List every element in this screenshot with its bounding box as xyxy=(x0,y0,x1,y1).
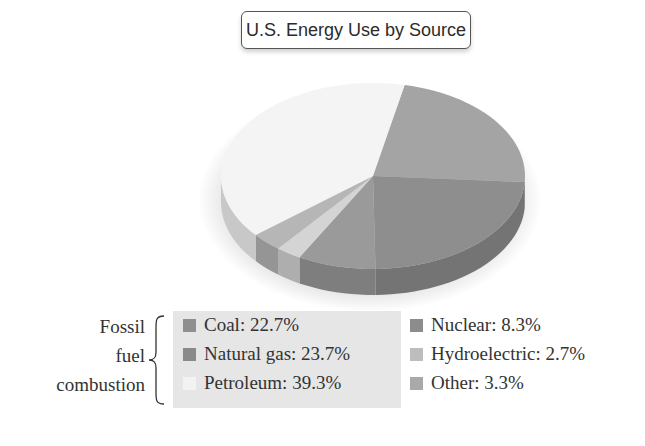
legend-item-nuclear: Nuclear: 8.3% xyxy=(410,314,541,336)
legend-label: Hydroelectric: 2.7% xyxy=(431,343,585,365)
legend-item-coal: Coal: 22.7% xyxy=(183,314,299,336)
legend-label: Natural gas: 23.7% xyxy=(204,343,350,365)
swatch-other xyxy=(410,377,423,390)
curly-brace-icon xyxy=(146,314,168,406)
fossil-fuel-group-label: Fossil fuel combustion xyxy=(40,312,145,399)
swatch-coal xyxy=(183,319,196,332)
group-label-line: fuel xyxy=(40,341,145,370)
legend-item-other: Other: 3.3% xyxy=(410,372,524,394)
legend-label: Nuclear: 8.3% xyxy=(431,314,541,336)
legend-item-petroleum: Petroleum: 39.3% xyxy=(183,372,341,394)
legend-item-natural-gas: Natural gas: 23.7% xyxy=(183,343,350,365)
group-label-line: Fossil xyxy=(40,312,145,341)
swatch-nuclear xyxy=(410,319,423,332)
legend-item-hydroelectric: Hydroelectric: 2.7% xyxy=(410,343,585,365)
swatch-natural-gas xyxy=(183,348,196,361)
legend-label: Petroleum: 39.3% xyxy=(204,372,341,394)
group-label-line: combustion xyxy=(40,370,145,399)
swatch-petroleum xyxy=(183,377,196,390)
legend-label: Other: 3.3% xyxy=(431,372,524,394)
legend-label: Coal: 22.7% xyxy=(204,314,299,336)
swatch-hydroelectric xyxy=(410,348,423,361)
